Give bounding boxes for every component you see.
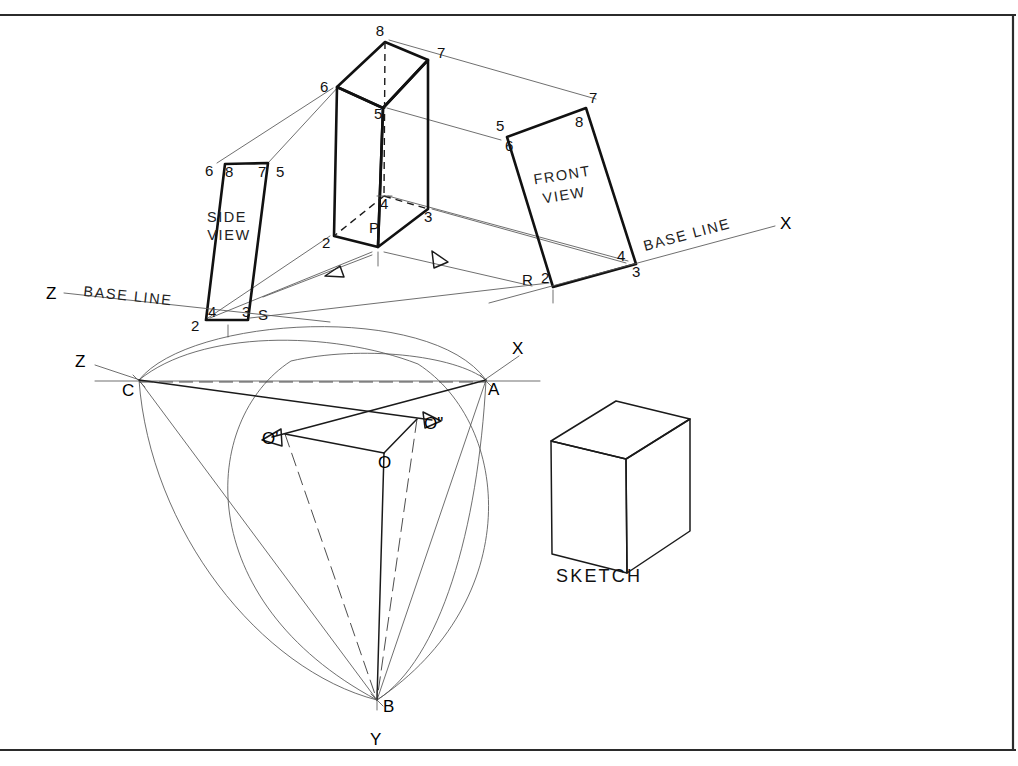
ray-C-to-Odblprime (139, 380, 432, 420)
axis-label-upper-z: Z (46, 284, 56, 303)
side-view-label-line1: SIDE (207, 209, 247, 225)
point-label-O-prime: O' (262, 429, 278, 448)
front-view-label-line2: VIEW (541, 184, 586, 207)
base-line-left-text: BASE LINE (83, 283, 174, 308)
drawing-sheet: 8 7 6 5 4 3 2 P SIDE VIEW 8 7 6 5 4 3 2 … (0, 0, 1018, 766)
arc-through-Oprime (228, 361, 377, 700)
prism-hidden-base-4-3 (384, 196, 428, 209)
projector-5-to-front (387, 108, 501, 140)
axis-ray-z (95, 365, 143, 381)
point-label-C: C (122, 381, 134, 400)
sketch-front-face (551, 441, 627, 573)
side-view-label-7: 7 (258, 163, 267, 180)
prism-label-4: 4 (380, 195, 389, 212)
prism-label-8: 8 (376, 22, 385, 39)
projector-3-to-front-4 (432, 209, 626, 263)
edge-O-B-vertical (377, 453, 384, 700)
front-view-label-3: 3 (632, 263, 641, 280)
ray-P-to-R (384, 252, 532, 286)
ray-A-to-Oprime (272, 380, 486, 437)
axis-ray-x (483, 356, 519, 381)
front-view-label-R: R (522, 271, 533, 288)
arc-small-upper-left (139, 340, 418, 380)
side-view-label-3: 3 (242, 303, 251, 320)
point-label-O: O (378, 453, 391, 472)
front-view-label-4: 4 (617, 247, 626, 264)
arrowhead-to-front-view (432, 251, 448, 268)
prism-hidden-vertical-8-4 (384, 42, 385, 196)
sketch-figure: SKETCH (551, 401, 690, 586)
sketch-side-face (626, 419, 690, 573)
sketch-top-face (551, 401, 690, 459)
isometric-prism (334, 42, 428, 266)
base-line-right-stroke (489, 226, 775, 303)
front-view-label-8: 8 (575, 113, 584, 130)
side-view-label-line2: VIEW (207, 227, 250, 243)
axis-label-upper-x: X (780, 214, 791, 233)
triangle-side-C-B (139, 380, 377, 700)
lower-construction-group (95, 327, 540, 710)
chain-line-Oprime-B (285, 434, 377, 700)
base-line-right-text: BASE LINE (642, 215, 732, 254)
prism-label-7: 7 (437, 44, 446, 61)
technical-drawing-canvas: 8 7 6 5 4 3 2 P SIDE VIEW 8 7 6 5 4 3 2 … (0, 0, 1018, 766)
projector-side-to-prism-top (268, 85, 340, 163)
front-view-label-5: 5 (496, 117, 505, 134)
side-view-label-2: 2 (191, 317, 200, 334)
prism-label-6: 6 (320, 78, 329, 95)
axis-label-lower-y: Y (370, 730, 381, 749)
arc-small-upper-right (291, 353, 486, 380)
side-view-label-8: 8 (225, 163, 234, 180)
prism-label-3: 3 (424, 208, 433, 225)
front-view-label-6: 6 (505, 137, 514, 154)
prism-label-P: P (369, 219, 379, 236)
sketch-label: SKETCH (556, 566, 642, 586)
axis-label-lower-x: X (512, 339, 523, 358)
projector-side-to-front-lower (250, 283, 549, 318)
front-view-label-2: 2 (541, 269, 550, 286)
side-view-label-5: 5 (276, 163, 285, 180)
point-label-A: A (488, 380, 500, 399)
prism-label-2: 2 (322, 234, 331, 251)
point-label-O-double-prime: O" (424, 414, 443, 433)
projector-4-horizontal (388, 196, 628, 261)
edge-O-Odblprime (384, 419, 417, 453)
front-view-label-7: 7 (589, 89, 598, 106)
base-line-left-group: Z BASE LINE (46, 283, 330, 322)
axis-label-lower-z: Z (75, 352, 85, 371)
point-label-B: B (383, 697, 394, 716)
prism-right-face (378, 60, 428, 247)
projector-6-side (217, 88, 333, 163)
ray-P-to-S (263, 255, 372, 297)
edge-Oprime-O (285, 434, 384, 453)
side-view-label-4: 4 (208, 303, 217, 320)
side-view-label-6: 6 (205, 162, 214, 179)
prism-label-5: 5 (374, 105, 383, 122)
